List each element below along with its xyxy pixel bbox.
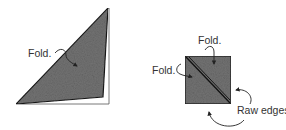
fold-label: Fold. (28, 47, 51, 59)
left-figure: Fold. (16, 8, 109, 104)
origami-diagram: Fold. Fold. Fold. Raw edges (0, 0, 286, 130)
raw-edges-right-arrow-icon (236, 90, 251, 104)
right-figure: Fold. Fold. Raw edges (152, 34, 286, 126)
fold-left-label: Fold. (152, 64, 175, 76)
fold-top-label: Fold. (198, 34, 221, 46)
raw-edges-label: Raw edges (237, 104, 286, 116)
